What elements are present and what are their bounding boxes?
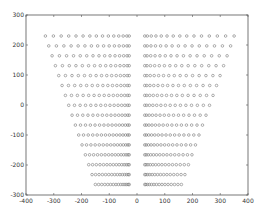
data-point — [184, 45, 187, 48]
data-point — [179, 35, 182, 38]
data-point — [167, 144, 170, 147]
data-point — [164, 163, 167, 166]
y-tick-label: -300 — [10, 191, 24, 198]
data-point — [148, 104, 151, 107]
data-point — [87, 114, 90, 117]
data-point — [156, 94, 159, 97]
data-point — [104, 104, 107, 107]
data-point — [79, 124, 82, 127]
data-point — [213, 45, 216, 48]
data-point — [64, 74, 67, 77]
data-point — [92, 55, 95, 58]
data-point — [95, 104, 98, 107]
data-point — [158, 64, 161, 67]
data-point — [171, 45, 174, 48]
data-point — [188, 114, 191, 117]
data-point — [64, 94, 67, 97]
data-point — [172, 84, 175, 87]
x-tick-label: 200 — [187, 197, 199, 204]
data-point — [180, 173, 183, 176]
data-point — [99, 163, 102, 166]
data-point — [91, 173, 94, 176]
data-point — [193, 35, 196, 38]
data-point — [224, 35, 227, 38]
data-point — [82, 134, 85, 137]
data-point — [180, 124, 183, 127]
data-point — [113, 45, 116, 48]
data-point — [221, 45, 224, 48]
data-point — [166, 84, 169, 87]
data-point — [167, 114, 170, 117]
data-point — [193, 134, 196, 137]
data-point — [162, 154, 165, 157]
data-point — [158, 183, 161, 186]
data-point — [149, 64, 152, 67]
data-point — [159, 55, 162, 58]
data-point — [95, 35, 98, 38]
data-point — [73, 104, 76, 107]
data-point — [194, 64, 197, 67]
data-point — [179, 104, 182, 107]
data-point — [203, 55, 206, 58]
data-point — [170, 183, 173, 186]
data-point — [110, 173, 113, 176]
data-point — [183, 163, 186, 166]
data-point — [154, 55, 157, 58]
data-point — [143, 35, 146, 38]
data-point — [107, 35, 110, 38]
data-point — [160, 104, 163, 107]
x-tick-label: 300 — [215, 197, 227, 204]
data-point — [92, 154, 95, 157]
data-point — [73, 84, 76, 87]
data-point — [185, 124, 188, 127]
data-point — [169, 64, 172, 67]
data-point — [101, 35, 104, 38]
data-point — [207, 64, 210, 67]
data-point — [74, 124, 77, 127]
data-point — [97, 183, 100, 186]
data-point — [216, 35, 219, 38]
data-point — [72, 55, 75, 58]
data-point — [76, 114, 79, 117]
data-point — [205, 74, 208, 77]
data-point — [107, 124, 110, 127]
scatter-chart: -400-300-200-1000100200300400-300-200-10… — [0, 0, 266, 213]
data-point — [51, 55, 54, 58]
data-point — [90, 104, 93, 107]
data-point — [199, 114, 202, 117]
data-point — [112, 183, 115, 186]
data-point — [190, 104, 193, 107]
data-point — [154, 124, 157, 127]
data-point — [152, 104, 155, 107]
data-point — [98, 55, 101, 58]
data-point — [176, 55, 179, 58]
data-point — [85, 84, 88, 87]
data-point — [81, 144, 84, 147]
data-point — [185, 35, 188, 38]
data-point — [95, 74, 98, 77]
data-point — [61, 84, 64, 87]
data-point — [102, 84, 105, 87]
data-point — [158, 154, 161, 157]
data-point — [88, 154, 91, 157]
data-point — [200, 35, 203, 38]
data-point — [117, 114, 120, 117]
data-point — [71, 74, 74, 77]
data-point — [162, 173, 165, 176]
data-point — [201, 124, 204, 127]
data-point — [99, 64, 102, 67]
data-point — [118, 55, 121, 58]
data-point — [176, 94, 179, 97]
data-point — [178, 134, 181, 137]
data-point — [187, 64, 190, 67]
data-point — [196, 55, 199, 58]
data-point — [90, 144, 93, 147]
data-point — [153, 74, 156, 77]
data-point — [116, 173, 119, 176]
data-point — [161, 163, 164, 166]
y-tick-label: 100 — [13, 71, 25, 78]
data-point — [110, 74, 113, 77]
data-point — [199, 94, 202, 97]
data-point — [175, 163, 178, 166]
data-point — [123, 84, 126, 87]
